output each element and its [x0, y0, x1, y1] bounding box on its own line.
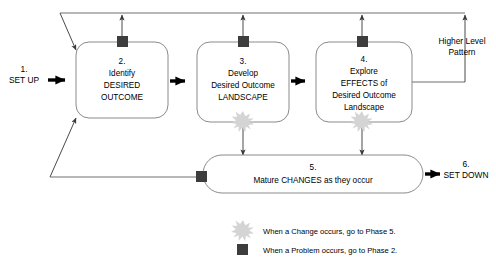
phase-3-number: 3. [240, 57, 247, 66]
problem-return-lower-path [50, 118, 201, 177]
flowchart-svg: 2. Identify DESIRED OUTCOME 3. Develop D… [0, 0, 496, 266]
phase-4-line-3: Desired Outcome [332, 91, 396, 100]
phase-box-2[interactable]: 2. Identify DESIRED OUTCOME [76, 42, 168, 118]
problem-square-icon-phase-3 [238, 36, 249, 47]
higher-level-pattern-line-2: Pattern [448, 47, 475, 57]
phase-2-line-3: OUTCOME [101, 93, 143, 102]
legend-problem-text: When a Problem occurs, go to Phase 2. [263, 246, 397, 255]
phase-box-4[interactable]: 4. Explore EFFECTS of Desired Outcome La… [316, 42, 412, 122]
phase-3-line-3: LANDSCAPE [218, 93, 268, 102]
phase-3-line-2: Desired Outcome [211, 81, 275, 90]
phase-2-line-2: DESIRED [104, 81, 140, 90]
exit-number: 6. [463, 159, 470, 169]
flowchart-canvas: 2. Identify DESIRED OUTCOME 3. Develop D… [0, 0, 496, 266]
phase-5-number: 5. [310, 163, 317, 172]
higher-level-pattern-label: Higher Level Pattern [438, 36, 485, 57]
problem-square-icon-phase-4 [357, 36, 368, 47]
phase-2-line-1: Identify [109, 69, 136, 78]
entry-setup-label: 1. SET UP [9, 64, 40, 85]
problem-return-upper-diagonal [60, 13, 76, 50]
phase-box-5[interactable]: 5. Mature CHANGES as they occur [203, 155, 423, 193]
phase-4-line-2: EFFECTS of [341, 79, 388, 88]
entry-number: 1. [21, 64, 28, 74]
legend: When a Change occurs, go to Phase 5. Whe… [231, 220, 397, 255]
phase-4-number: 4. [361, 55, 368, 64]
entry-label: SET UP [9, 75, 40, 85]
phase-2-number: 2. [119, 57, 126, 66]
problem-square-icon-phase-2 [117, 36, 128, 47]
exit-label: SET DOWN [444, 170, 489, 180]
phase-4-line-4: Landscape [344, 103, 385, 112]
phase-4-line-1: Explore [350, 67, 378, 76]
higher-level-pattern-line-1: Higher Level [438, 36, 485, 46]
legend-row-problem: When a Problem occurs, go to Phase 2. [237, 244, 397, 255]
exit-setdown-label: 6. SET DOWN [444, 159, 489, 180]
phase-3-line-1: Develop [228, 69, 258, 78]
phase-box-3[interactable]: 3. Develop Desired Outcome LANDSCAPE [197, 42, 289, 122]
phase-5-label: Mature CHANGES as they occur [253, 176, 372, 185]
legend-row-change: When a Change occurs, go to Phase 5. [231, 220, 396, 241]
problem-square-icon-phase-5 [196, 171, 207, 182]
legend-change-text: When a Change occurs, go to Phase 5. [263, 227, 396, 236]
